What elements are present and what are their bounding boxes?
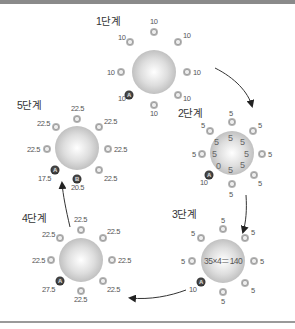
stage-4-label: 4단계	[22, 212, 46, 224]
svg-text:5: 5	[229, 109, 233, 118]
svg-text:10: 10	[183, 31, 191, 40]
svg-text:5: 5	[251, 286, 255, 295]
svg-text:5: 5	[212, 149, 217, 159]
svg-text:5: 5	[191, 229, 195, 238]
stage-1-ball	[132, 50, 176, 94]
svg-text:A: A	[199, 279, 204, 285]
arrow-1-to-2	[215, 68, 252, 106]
svg-text:10: 10	[189, 285, 197, 294]
arrow-2-to-3	[243, 195, 246, 232]
arrow-4-to-5	[62, 183, 70, 227]
svg-text:27.5: 27.5	[42, 285, 55, 294]
svg-text:10: 10	[150, 109, 158, 118]
svg-text:5: 5	[258, 179, 262, 188]
stage-5: 5단계 A B 22.5 22.5 22.5 22.5 22.5 22.5 17…	[17, 99, 127, 192]
stage-1-label: 1단계	[96, 15, 120, 27]
svg-text:10: 10	[118, 33, 126, 42]
svg-text:5: 5	[251, 228, 255, 237]
svg-text:A: A	[207, 172, 212, 178]
svg-text:5: 5	[229, 190, 233, 199]
svg-text:5: 5	[221, 297, 225, 306]
svg-text:5: 5	[228, 133, 233, 143]
stage-4: 4단계 A 22.5 22.5 22.5 22.5 22.5 22.5 22.5…	[22, 212, 131, 304]
svg-text:5: 5	[201, 121, 205, 130]
svg-text:22.5: 22.5	[104, 117, 117, 126]
svg-text:22.5: 22.5	[74, 295, 87, 304]
svg-text:5: 5	[181, 257, 185, 266]
svg-text:22.5: 22.5	[107, 285, 120, 294]
svg-text:5: 5	[240, 160, 245, 170]
svg-text:5: 5	[214, 137, 219, 147]
svg-text:10: 10	[118, 94, 126, 103]
svg-text:22.5: 22.5	[74, 215, 87, 224]
svg-text:A: A	[58, 278, 63, 284]
svg-text:A: A	[53, 167, 58, 173]
svg-text:10: 10	[193, 68, 201, 77]
svg-text:5: 5	[260, 257, 264, 266]
svg-text:10: 10	[183, 94, 191, 103]
svg-text:10: 10	[150, 17, 158, 26]
svg-text:5: 5	[221, 216, 225, 225]
svg-text:20.5: 20.5	[71, 183, 84, 192]
svg-text:22.5: 22.5	[114, 145, 127, 154]
stage-5-label: 5단계	[17, 99, 41, 111]
svg-text:5: 5	[192, 150, 196, 159]
stage-4-ball	[59, 238, 103, 282]
svg-text:22.5: 22.5	[27, 145, 40, 154]
svg-text:22.5: 22.5	[71, 104, 84, 113]
stage-2-label: 2단계	[178, 107, 202, 119]
svg-text:B: B	[75, 176, 80, 182]
stage-2: 2단계 A 5 5 5 5 5 5 5 10 5 5 5 5 5 5 0 5	[178, 107, 272, 199]
svg-text:A: A	[127, 92, 132, 98]
svg-text:5: 5	[268, 150, 272, 159]
stage-cycle-diagram: 1단계 A 10 10 10 10 10 10 10 10 2단계	[0, 0, 295, 329]
stage-3: 3단계 35×4＝140 A 5 5 5 5 5 5 5 10	[172, 208, 264, 306]
svg-text:5: 5	[244, 149, 249, 159]
svg-text:22.5: 22.5	[118, 256, 131, 265]
svg-text:17.5: 17.5	[38, 174, 51, 183]
svg-text:22.5: 22.5	[107, 227, 120, 236]
svg-text:10: 10	[200, 178, 208, 187]
stage-3-formula: 35×4＝140	[204, 256, 243, 266]
svg-text:5: 5	[240, 137, 245, 147]
arrow-3-to-4	[130, 290, 186, 299]
svg-text:10: 10	[107, 68, 115, 77]
stage-3-label: 3단계	[172, 208, 196, 220]
svg-text:0: 0	[216, 161, 221, 171]
svg-text:22.5: 22.5	[37, 119, 50, 128]
svg-text:22.5: 22.5	[42, 230, 55, 239]
bottom-rule	[0, 321, 295, 323]
stage-5-ball	[55, 126, 99, 170]
svg-text:22.5: 22.5	[104, 174, 117, 183]
stage-1: 1단계 A 10 10 10 10 10 10 10 10	[96, 15, 201, 118]
svg-text:22.5: 22.5	[32, 256, 45, 265]
svg-text:5: 5	[258, 121, 262, 130]
svg-text:5: 5	[228, 165, 233, 175]
